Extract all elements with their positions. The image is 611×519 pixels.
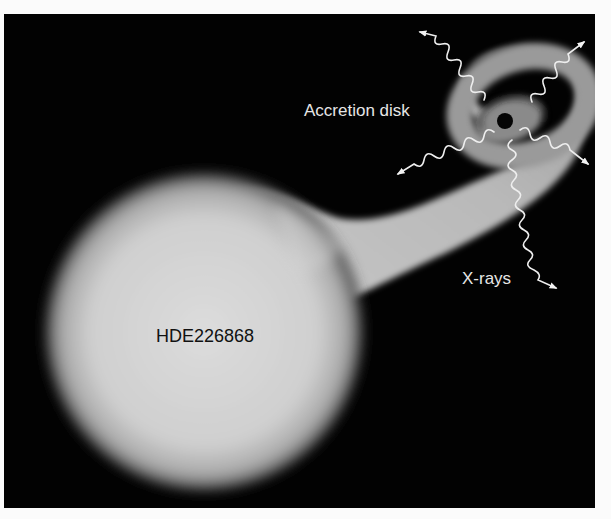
binary-system-illustration (4, 14, 595, 508)
black-hole-icon (497, 113, 513, 129)
accretion-disk-label: Accretion disk (304, 102, 410, 119)
star-label: HDE226868 (156, 327, 254, 345)
xrays-label: X-rays (462, 270, 511, 287)
diagram-panel: Accretion disk X-rays HDE226868 (4, 14, 595, 508)
